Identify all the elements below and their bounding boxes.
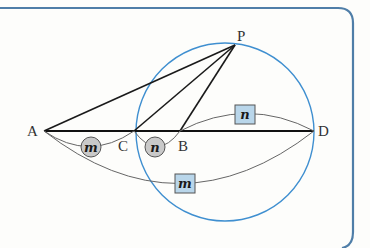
label-D: D [318, 123, 329, 139]
badge-n-circle: n [145, 137, 165, 157]
label-A: A [27, 123, 38, 139]
segment-CP [134, 45, 235, 131]
badge-n-circle-text: n [150, 140, 159, 155]
frame-border [0, 8, 353, 248]
label-P: P [237, 28, 245, 44]
badge-n-box: n [235, 105, 255, 124]
badge-m-box-text: m [178, 176, 192, 191]
diagram-canvas: m n n m A C B D P [0, 0, 370, 248]
badge-n-box-text: n [240, 107, 249, 122]
badge-m-circle: m [81, 137, 101, 157]
badge-m-circle-text: m [84, 140, 98, 155]
label-C: C [118, 138, 128, 154]
badge-m-box: m [175, 174, 195, 193]
segment-AP [44, 45, 235, 131]
label-B: B [178, 138, 188, 154]
